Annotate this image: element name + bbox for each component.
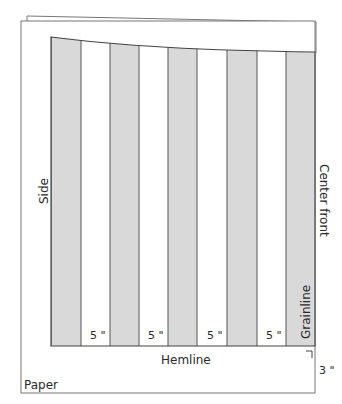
spread-gap (139, 30, 168, 350)
spread-label: 5 " (266, 329, 282, 342)
side-label: Side (37, 178, 51, 204)
pattern-strip (110, 30, 139, 350)
slash-and-spread-diagram: 5 " 5 " 5 " 5 " Side Center front Grainl… (0, 0, 342, 404)
hem-allowance-label: 3 " (319, 364, 335, 377)
spread-gap (257, 30, 286, 350)
grainline-label: Grainline (299, 285, 313, 339)
pattern-strip (51, 30, 81, 350)
pattern-strip (168, 30, 197, 350)
pattern-strip (227, 30, 257, 350)
spread-gap (197, 30, 227, 350)
pattern-strips (51, 30, 315, 350)
center-front-label: Center front (317, 164, 331, 237)
spread-gap (81, 30, 110, 350)
spread-label: 5 " (90, 329, 106, 342)
paper-label: Paper (24, 378, 58, 392)
hemline-label: Hemline (161, 353, 211, 367)
spread-label: 5 " (207, 329, 223, 342)
spread-label: 5 " (148, 329, 164, 342)
